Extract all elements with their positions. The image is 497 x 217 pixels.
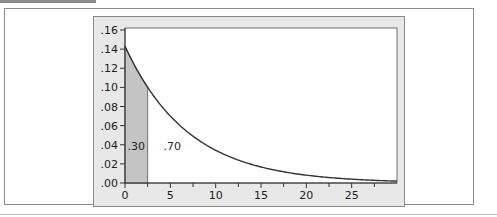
x-tick-label: 10 [209, 189, 223, 202]
plot-area [125, 28, 397, 183]
x-tick-label: 15 [254, 189, 268, 202]
y-tick-label: .10 [101, 81, 119, 94]
annotation-left-area: .30 [128, 140, 146, 153]
exponential-density-chart: .00.02.04.06.08.10.12.14.160510152025.30… [0, 0, 497, 217]
y-tick-label: .16 [101, 24, 119, 37]
x-tick-label: 20 [299, 189, 313, 202]
y-tick-label: .12 [101, 62, 119, 75]
x-tick-label: 5 [167, 189, 174, 202]
x-tick-label: 25 [345, 189, 359, 202]
annotation-right-area: .70 [163, 140, 181, 153]
y-tick-label: .06 [101, 120, 119, 133]
y-tick-label: .08 [101, 101, 119, 114]
y-tick-label: .00 [101, 177, 119, 190]
y-tick-label: .14 [101, 43, 119, 56]
y-tick-label: .02 [101, 158, 119, 171]
x-tick-label: 0 [122, 189, 129, 202]
y-tick-label: .04 [101, 139, 119, 152]
